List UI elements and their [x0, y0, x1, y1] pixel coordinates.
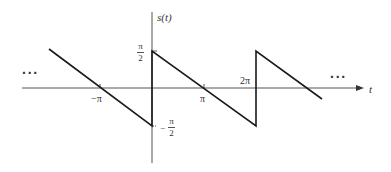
frac-numerator: π [138, 42, 143, 51]
frac-denominator: 2 [138, 54, 143, 63]
tick-label-pi: π [200, 94, 205, 104]
tick-label-neg-pi: −π [91, 94, 102, 104]
ellipsis-left: ··· [22, 66, 39, 80]
x-axis-label: t [369, 84, 372, 95]
neg-sign: − [160, 123, 165, 133]
y-axis-label: s(t) [157, 12, 172, 23]
ellipsis-right: ··· [330, 70, 347, 84]
sawtooth-diagram: s(t) t ··· ··· −π π 2π π 2 − π 2 [0, 0, 391, 172]
y-label-pos-half-pi: π 2 [137, 42, 144, 63]
y-label-neg-half-pi: − π 2 [160, 117, 175, 138]
frac-denominator: 2 [169, 129, 174, 138]
tick-label-two-pi: 2π [240, 76, 250, 86]
plot-canvas [0, 0, 391, 172]
t-axis-arrow-icon [356, 85, 364, 91]
frac-numerator: π [169, 117, 174, 126]
